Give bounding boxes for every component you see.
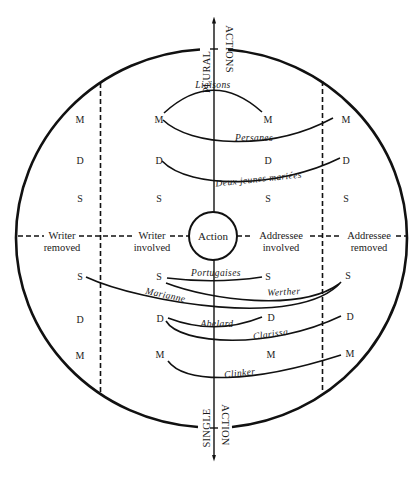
title-liaisons: Liaisons — [194, 80, 230, 90]
label-addressee-involved: Addressee — [259, 230, 303, 241]
title-clarissa: Clarissa — [252, 327, 288, 342]
svg-text:M: M — [342, 114, 351, 125]
upper-nodes: M M M M D D D D S S S S — [76, 114, 351, 204]
title-clinker: Clinker — [224, 366, 256, 379]
svg-text:D: D — [346, 311, 353, 322]
svg-text:S: S — [77, 271, 83, 282]
curve-werther — [166, 283, 339, 301]
svg-text:S: S — [265, 271, 271, 282]
svg-text:M: M — [267, 349, 276, 360]
svg-text:D: D — [267, 312, 274, 323]
label-writer-involved-2: involved — [134, 242, 171, 253]
svg-text:S: S — [345, 270, 351, 281]
svg-text:M: M — [346, 348, 355, 359]
svg-text:M: M — [156, 349, 165, 360]
label-addressee-removed: Addressee — [347, 230, 391, 241]
axis-label-actions: ACTIONS — [224, 25, 235, 73]
action-label: Action — [198, 230, 228, 242]
svg-text:S: S — [156, 193, 162, 204]
curve-liaisons — [164, 90, 262, 113]
label-writer-removed: Writer — [49, 230, 76, 241]
label-addressee-removed-2: removed — [351, 242, 388, 253]
title-deux-jeunes-mariees: Deux jeunes mariées — [214, 170, 302, 189]
svg-text:D: D — [342, 155, 349, 166]
title-abelard: Abelard — [199, 319, 233, 329]
title-persanes: Persanes — [234, 133, 273, 143]
lower-nodes: S S S S D D D D M M M M — [76, 270, 355, 361]
label-addressee-involved-2: involved — [263, 242, 300, 253]
svg-text:D: D — [76, 314, 83, 325]
svg-text:M: M — [155, 114, 164, 125]
svg-text:S: S — [77, 193, 83, 204]
svg-text:D: D — [264, 155, 271, 166]
svg-text:M: M — [76, 114, 85, 125]
axis-label-single: SINGLE — [201, 408, 212, 447]
svg-text:M: M — [264, 114, 273, 125]
svg-text:S: S — [343, 193, 349, 204]
svg-text:D: D — [156, 313, 163, 324]
title-portugaises: Portugaises — [190, 268, 241, 278]
title-werther: Werther — [267, 286, 301, 298]
epistolary-diagram: PLURAL ACTIONS SINGLE ACTION Action Writ… — [0, 0, 420, 477]
svg-text:D: D — [76, 155, 83, 166]
label-writer-involved: Writer — [139, 230, 166, 241]
svg-text:S: S — [265, 193, 271, 204]
svg-text:M: M — [76, 350, 85, 361]
svg-text:S: S — [156, 271, 162, 282]
label-writer-removed-2: removed — [44, 242, 81, 253]
svg-text:D: D — [155, 155, 162, 166]
axis-label-action: ACTION — [220, 404, 231, 446]
